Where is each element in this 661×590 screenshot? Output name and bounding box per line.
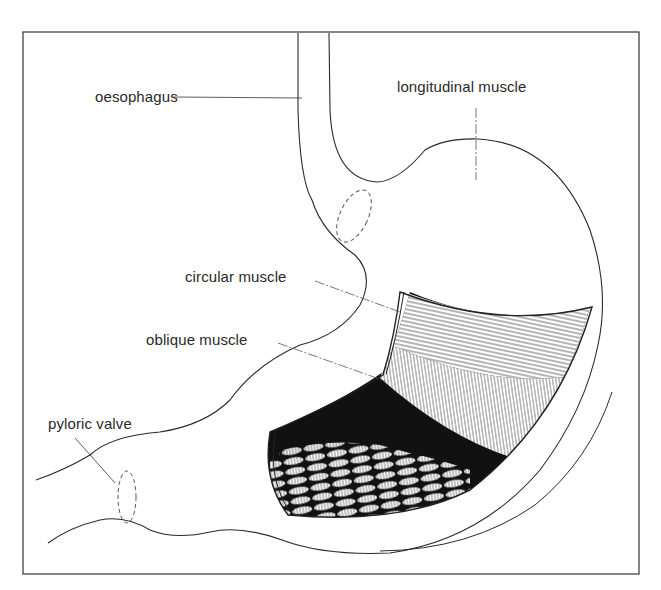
label-circular-muscle: circular muscle [185,269,287,284]
leader-oesophagus [173,97,302,98]
pyloric-valve-shape [118,471,136,523]
muscle-cutaway [250,280,610,530]
leader-circular [315,281,400,312]
label-longitudinal-muscle: longitudinal muscle [397,79,526,94]
cardiac-sphincter [329,185,378,248]
label-oesophagus: oesophagus [95,89,178,104]
label-oblique-muscle: oblique muscle [146,332,247,347]
stomach-diagram: oesophagus longitudinal muscle circular … [0,0,661,590]
label-pyloric-valve: pyloric valve [48,416,132,431]
leader-oblique [278,343,385,381]
